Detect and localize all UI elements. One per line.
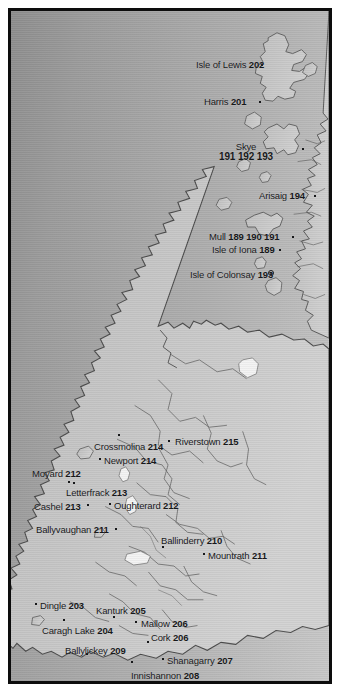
- place-label: Mallow 206: [141, 619, 188, 630]
- place-label-name: Mallow: [141, 618, 170, 629]
- place-label-code: 214: [148, 441, 163, 452]
- place-label-code: 194: [290, 190, 305, 201]
- place-label-name: Harris: [204, 96, 228, 107]
- place-label: Crossmolina 214: [94, 442, 163, 453]
- place-label-name: Cashel: [34, 501, 63, 512]
- city-marker: [162, 658, 164, 660]
- place-label: Isle of Lewis 202: [196, 60, 264, 71]
- place-label-name: Letterfrack: [66, 487, 109, 498]
- place-label: Harris 201: [204, 97, 246, 108]
- place-label-name: Mountrath: [208, 550, 249, 561]
- place-label-name: Oughterard: [114, 500, 161, 511]
- place-label-code: 206: [172, 618, 187, 629]
- ireland-coastline: [11, 167, 329, 661]
- city-marker: [302, 148, 304, 150]
- city-marker: [99, 458, 101, 460]
- place-label-code: 191 192 193: [219, 152, 273, 162]
- place-label-name: Isle of Iona: [212, 244, 257, 255]
- place-label-name: Ballylickey: [65, 645, 108, 656]
- map-geometry: [11, 11, 329, 681]
- place-label-code: 207: [217, 655, 232, 666]
- place-label-name: Isle of Lewis: [196, 59, 246, 70]
- place-label: Isle of Colonsay 193: [190, 270, 273, 281]
- place-label-name: Moyard: [32, 468, 63, 479]
- place-label-code: 215: [223, 436, 238, 447]
- place-label: Ballinderry 210: [161, 536, 222, 547]
- city-marker: [135, 621, 137, 623]
- place-label-name: Ballinderry: [161, 535, 204, 546]
- place-label: Caragh Lake 204: [42, 626, 113, 637]
- place-label-code: 205: [130, 605, 145, 616]
- place-label: Mountrath 211: [208, 551, 267, 562]
- place-label-name: Ballyvaughan: [36, 524, 91, 535]
- place-label-code: 212: [65, 468, 80, 479]
- place-label-code: 201: [231, 96, 246, 107]
- map-frame: Isle of Lewis 202Harris 201Skye191 192 1…: [8, 8, 332, 684]
- place-label-code: 211: [94, 524, 109, 535]
- place-label-code: 211: [252, 550, 267, 561]
- city-marker: [279, 249, 281, 251]
- place-label-name: Newport: [104, 455, 138, 466]
- place-label-name: Isle of Colonsay: [190, 269, 255, 280]
- city-marker: [168, 440, 170, 442]
- city-marker: [118, 434, 120, 436]
- place-label-name: Riverstown: [175, 436, 221, 447]
- place-label-code: 189: [259, 244, 274, 255]
- place-label: Riverstown 215: [175, 437, 238, 448]
- place-label-name: Arisaig: [259, 190, 287, 201]
- place-label: Cork 206: [151, 633, 188, 644]
- place-label: Ballyvaughan 211: [36, 525, 109, 536]
- city-marker: [115, 528, 117, 530]
- city-marker: [131, 661, 133, 663]
- place-label: Letterfrack 213: [66, 488, 127, 499]
- place-label: Cashel 213: [34, 502, 81, 513]
- place-label: Skye191 192 193: [219, 142, 273, 162]
- place-label-name: Dingle: [40, 600, 66, 611]
- city-marker: [109, 503, 111, 505]
- place-label: Isle of Iona 189: [212, 245, 275, 256]
- place-label-name: Crossmolina: [94, 441, 145, 452]
- place-label: Moyard 212: [32, 469, 81, 480]
- city-marker: [259, 101, 261, 103]
- place-label-code: 189 190 191: [228, 231, 279, 242]
- city-marker: [68, 481, 70, 483]
- place-label: Arisaig 194: [259, 191, 305, 202]
- place-label-code: 206: [173, 632, 188, 643]
- place-label-code: 212: [163, 500, 178, 511]
- eigg-islet: [259, 172, 271, 183]
- place-label: Innishannon 208: [131, 671, 199, 682]
- city-marker: [147, 641, 149, 643]
- place-label-name: Caragh Lake: [42, 625, 95, 636]
- place-label: Newport 214: [104, 456, 156, 467]
- north-uist: [245, 112, 262, 129]
- place-label-code: 208: [184, 670, 199, 681]
- place-label-code: 210: [207, 535, 222, 546]
- place-label-code: 202: [249, 59, 264, 70]
- coll-tiree: [216, 197, 232, 210]
- place-label-code: 204: [97, 625, 112, 636]
- place-label-name: Cork: [151, 632, 170, 643]
- place-label: Oughterard 212: [114, 501, 178, 512]
- city-marker: [35, 603, 37, 605]
- city-marker: [63, 619, 65, 621]
- place-label-code: 203: [69, 600, 84, 611]
- place-label-name: Innishannon: [131, 670, 181, 681]
- place-label: Shanagarry 207: [167, 656, 233, 667]
- city-marker: [73, 482, 75, 484]
- place-label: Kanturk 205: [96, 606, 146, 617]
- city-marker: [292, 236, 294, 238]
- place-label-code: 209: [110, 645, 125, 656]
- city-marker: [314, 195, 316, 197]
- place-label-name: Shanagarry: [167, 655, 215, 666]
- place-label: Mull 189 190 191: [209, 232, 280, 243]
- place-label-name: Mull: [209, 231, 226, 242]
- isle-of-colonsay: [254, 257, 266, 269]
- north-minch-islet: [303, 63, 318, 77]
- place-label-name: Kanturk: [96, 605, 128, 616]
- place-label: Ballylickey 209: [65, 646, 126, 657]
- place-label-code: 213: [65, 501, 80, 512]
- place-label-code: 214: [141, 455, 156, 466]
- city-marker: [203, 553, 205, 555]
- place-label-code: 213: [112, 487, 127, 498]
- place-label-code: 193: [258, 269, 273, 280]
